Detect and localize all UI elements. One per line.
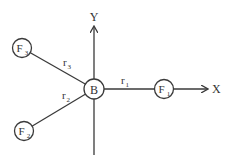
svg-text:1: 1 [167, 90, 171, 98]
node-b: B [84, 79, 104, 99]
svg-text:3: 3 [68, 63, 72, 71]
edge-r3 [22, 48, 94, 89]
svg-text:3: 3 [25, 49, 29, 57]
svg-text:F: F [158, 83, 164, 95]
svg-text:B: B [90, 83, 98, 97]
edge-label-r3: r 3 [63, 56, 72, 71]
svg-text:2: 2 [67, 96, 71, 104]
edge-label-r1: r 1 [121, 74, 130, 89]
svg-text:F: F [18, 125, 24, 137]
svg-text:r: r [121, 74, 125, 86]
svg-text:1: 1 [126, 81, 130, 89]
y-axis-label: Y [90, 10, 99, 24]
x-axis-label: X [212, 82, 221, 96]
node-f2: F 2 [15, 122, 34, 141]
svg-text:F: F [16, 42, 22, 54]
node-f3: F 3 [13, 39, 32, 58]
edge-label-r2: r 2 [62, 89, 71, 104]
svg-text:2: 2 [27, 132, 31, 140]
svg-text:r: r [62, 89, 66, 101]
svg-text:r: r [63, 56, 67, 68]
force-diagram: Y X F 3 F 2 F 1 B r 3 r 2 r 1 [0, 0, 232, 163]
edge-r2 [24, 89, 94, 131]
node-f1: F 1 [155, 80, 174, 99]
